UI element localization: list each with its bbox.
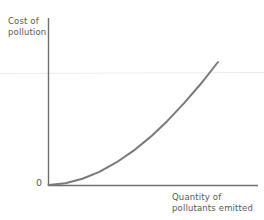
y-axis-label: Cost of pollution — [8, 16, 68, 38]
cost-of-pollution-curve — [49, 62, 219, 185]
origin-label: 0 — [36, 177, 42, 188]
x-axis-label: Quantity of pollutants emitted — [172, 192, 264, 214]
pollution-cost-chart: Cost of pollution Quantity of pollutants… — [0, 0, 264, 220]
scanline-artifact — [0, 73, 264, 74]
